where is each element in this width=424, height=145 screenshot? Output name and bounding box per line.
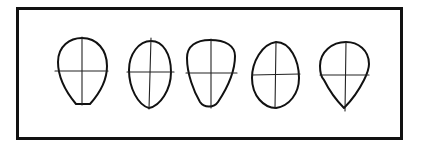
vertical-guide-5 bbox=[345, 42, 346, 111]
vertical-guide-2 bbox=[149, 38, 151, 109]
face-shape-3 bbox=[186, 39, 237, 108]
face-shape-2 bbox=[127, 38, 174, 109]
horizontal-guide-4 bbox=[252, 74, 300, 75]
face-shape-1 bbox=[55, 37, 108, 105]
face-shape-4 bbox=[252, 42, 300, 108]
face-shape-5 bbox=[320, 42, 369, 111]
face-shapes-diagram bbox=[0, 0, 424, 145]
